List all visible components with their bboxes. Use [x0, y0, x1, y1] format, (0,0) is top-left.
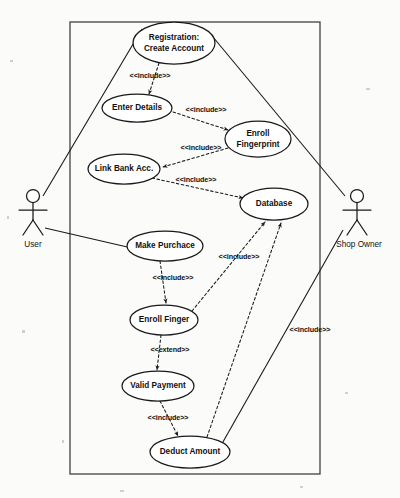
actor-shop-owner[interactable]: Shop Owner	[336, 190, 382, 250]
use-case-link-bank-acc[interactable]: Link Bank Acc.	[88, 154, 160, 184]
use-case-diagram-canvas: Registration: Create Account Enter Detai…	[0, 0, 400, 498]
use-case-label: Database	[256, 199, 293, 208]
stereotype-include-label: <<include>>	[186, 105, 227, 114]
use-case-label: Registration:	[149, 33, 200, 42]
use-case-label: Fingerprint	[236, 140, 279, 149]
stereotype-include-label: <<include>>	[176, 175, 217, 184]
actor-leg-right-icon	[33, 220, 43, 235]
stereotype-include-label: <<include>>	[148, 413, 189, 422]
stereotype-include-label: <<include>>	[130, 71, 171, 80]
rel-purchase-enroll[interactable]	[160, 261, 166, 303]
actor-user[interactable]: User	[19, 190, 47, 250]
use-case-registration[interactable]: Registration: Create Account	[133, 22, 215, 64]
use-case-label: Enter Details	[112, 103, 162, 112]
stereotype-include-label: <<include>>	[153, 273, 194, 282]
use-case-enroll-fingerprint[interactable]: Enroll Fingerprint	[225, 121, 291, 157]
use-case-database[interactable]: Database	[240, 188, 308, 220]
use-case-label: Valid Payment	[130, 381, 186, 390]
rel-enter-enroll-fp[interactable]	[173, 112, 228, 130]
actor-head-icon	[351, 190, 364, 203]
stereotype-include-label: <<include>>	[181, 143, 222, 152]
assoc-owner-registration[interactable]	[208, 31, 345, 196]
use-case-label: Link Bank Acc.	[95, 164, 153, 173]
stereotype-extend-label: <<extend>>	[151, 345, 190, 354]
use-case-label: Deduct Amount	[160, 447, 221, 456]
actor-head-icon	[27, 190, 40, 203]
actor-label-shop-owner: Shop Owner	[336, 240, 382, 249]
use-case-valid-payment[interactable]: Valid Payment	[122, 371, 194, 401]
use-case-enroll-finger[interactable]: Enroll Finger	[130, 305, 198, 335]
use-case-label: Enroll Finger	[139, 315, 190, 324]
actor-leg-right-icon	[357, 220, 367, 235]
use-case-deduct-amount[interactable]: Deduct Amount	[150, 436, 230, 468]
assoc-user-purchase[interactable]	[45, 228, 136, 249]
stereotype-include-label: <<include>>	[219, 252, 260, 261]
stereotype-include-label: <<include>>	[290, 325, 331, 334]
actor-leg-left-icon	[347, 220, 357, 235]
actor-label-user: User	[24, 240, 42, 249]
use-case-label: Create Account	[144, 44, 204, 53]
use-case-make-purchace[interactable]: Make Purchace	[127, 231, 203, 261]
use-case-enter-details[interactable]: Enter Details	[102, 94, 172, 122]
actor-leg-left-icon	[23, 220, 33, 235]
use-case-label: Enroll	[246, 129, 269, 138]
use-case-label: Make Purchace	[135, 241, 195, 250]
rel-enroll-db[interactable]	[192, 222, 265, 311]
assoc-owner-deduct[interactable]	[215, 230, 343, 456]
